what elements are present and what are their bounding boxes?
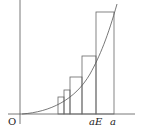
rectangle-2 <box>64 90 70 114</box>
rectangle-4 <box>82 56 96 114</box>
partition-point-label: aE <box>89 116 103 127</box>
rectangle-5 <box>96 12 114 114</box>
diagram-canvas: O aE a <box>0 0 144 138</box>
endpoint-label: a <box>110 116 116 127</box>
rectangle-1 <box>58 97 64 114</box>
curve <box>22 4 117 114</box>
origin-label: O <box>8 116 16 127</box>
